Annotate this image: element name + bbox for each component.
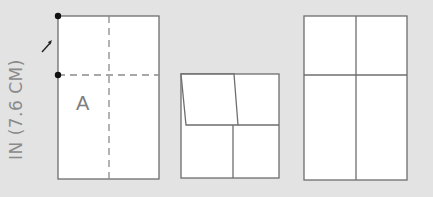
marker-dot-mid [55, 72, 61, 78]
fold-diagram: A [0, 0, 433, 197]
panel-3 [304, 16, 407, 180]
folded-flap [181, 74, 238, 125]
panel-1: A [42, 13, 159, 179]
panel-label-a: A [76, 92, 90, 114]
panel-2 [181, 74, 279, 178]
marker-dot-top [55, 13, 61, 19]
